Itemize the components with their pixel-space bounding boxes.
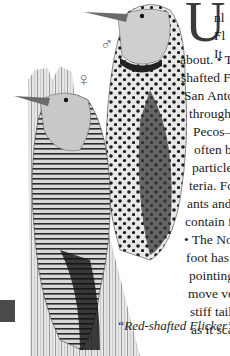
female-symbol-icon: ♀: [76, 68, 91, 91]
text-line: pointing: [189, 268, 230, 284]
text-line: shafted Flic: [181, 70, 230, 86]
text-line: Fl: [214, 28, 225, 44]
text-line: Pecos—: [193, 124, 230, 140]
text-line: foot has: [186, 250, 229, 266]
text-line: about. • Tw: [180, 52, 230, 68]
text-line: contain fo: [185, 214, 230, 230]
text-line: particles: [192, 160, 230, 176]
text-line: • The No: [184, 232, 230, 248]
text-line: move ver: [188, 286, 230, 302]
text-line: ants and: [187, 196, 230, 212]
illustration-caption: “Red-shafted Flicker”: [117, 318, 230, 334]
male-symbol-icon: ♂: [100, 34, 114, 55]
text-line: througho: [189, 106, 230, 122]
text-line: often b: [194, 142, 230, 158]
text-line: teria. For: [189, 178, 230, 194]
text-line: nl: [214, 10, 225, 26]
page-edge-tab: [0, 300, 15, 322]
text-line: San Anton: [184, 88, 230, 104]
